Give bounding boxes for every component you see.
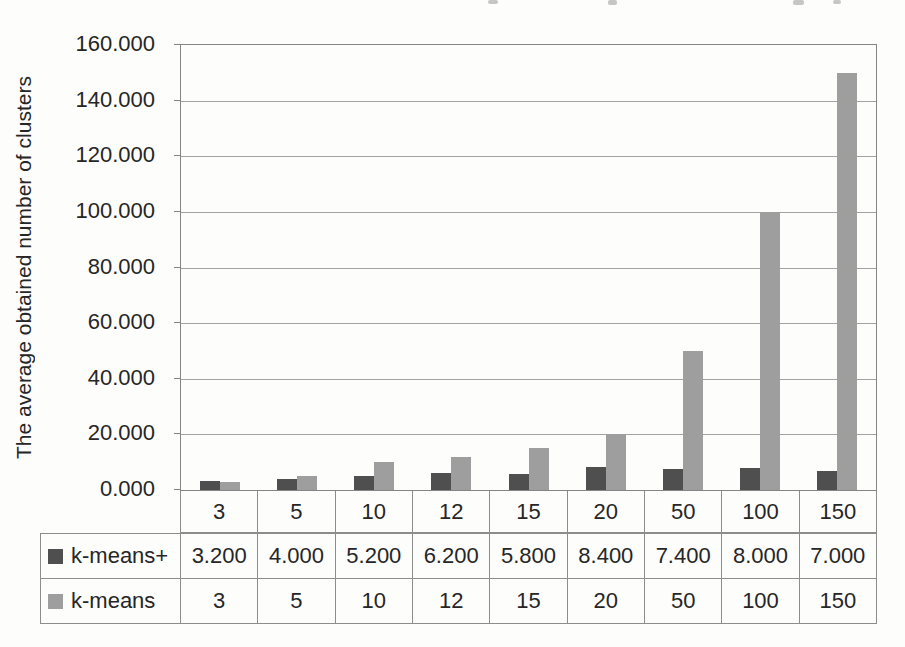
bar-k-meansplus [817,471,837,490]
y-tick-mark [174,211,180,212]
table-value-cell: 7.000 [800,534,877,579]
table-value-cell: 3 [181,579,258,624]
bar-k-means [220,482,240,490]
gridline [181,156,876,157]
table-value-cell: 20 [568,579,645,624]
y-tick-label: 100.000 [75,198,155,224]
table-value-cell: 4.000 [258,534,335,579]
y-tick-label: 20.000 [88,420,155,446]
y-tick-label: 140.000 [75,87,155,113]
y-tick-mark [174,44,180,45]
y-tick-mark [174,322,180,323]
scan-artifact [608,0,617,5]
y-tick-mark [174,433,180,434]
y-tick-mark [174,378,180,379]
y-tick-mark [174,155,180,156]
x-category-cell: 50 [645,491,722,533]
x-category-cell: 12 [413,491,490,533]
table-value-cell: 8.400 [568,534,645,579]
x-category-cell: 20 [568,491,645,533]
table-value-cell: 150 [800,579,877,624]
legend-row-header-k-meansplus: k-means+ [41,534,181,579]
table-value-cell: 3.200 [181,534,258,579]
bar-k-means [837,73,857,490]
bar-k-means [297,476,317,490]
scan-artifact [833,0,841,4]
bar-k-meansplus [509,474,529,490]
bar-k-meansplus [740,468,760,490]
x-category-cell: 15 [490,491,567,533]
legend-label-k-meansplus: k-means+ [71,543,168,569]
gridline [181,101,876,102]
y-tick-label: 0.000 [100,476,155,502]
table-value-cell: 12 [413,579,490,624]
bar-k-means [760,212,780,490]
y-tick-mark [174,100,180,101]
y-tick-label: 40.000 [88,365,155,391]
bar-k-meansplus [200,481,220,490]
table-value-cell: 6.200 [413,534,490,579]
scanned-chart-page: The average obtained number of clusters … [0,0,905,647]
legend-row-header-k-means: k-means [41,579,181,624]
bar-k-means [451,457,471,490]
bar-k-means [683,351,703,490]
y-tick-label: 120.000 [75,142,155,168]
y-axis-title: The average obtained number of clusters [6,44,42,491]
table-value-cell: 5.200 [336,534,413,579]
y-tick-label: 80.000 [88,254,155,280]
table-value-cell: 8.000 [722,534,799,579]
scan-artifact [488,0,498,4]
bar-k-meansplus [586,467,606,490]
scan-artifact [793,0,804,5]
bar-k-meansplus [663,469,683,490]
y-tick-label: 160.000 [75,31,155,57]
x-category-cell: 150 [800,491,877,533]
x-category-cell: 5 [258,491,335,533]
plot-area [180,44,877,491]
bar-k-meansplus [277,479,297,490]
bar-k-means [606,434,626,490]
x-axis-category-row: 351012152050100150 [180,491,877,533]
data-table-legend: k-means+3.2004.0005.2006.2005.8008.4007.… [40,533,877,624]
x-category-cell: 100 [722,491,799,533]
table-value-cell: 50 [645,579,722,624]
table-value-cell: 5 [258,579,335,624]
legend-swatch-k-meansplus [48,549,63,564]
table-value-cell: 100 [722,579,799,624]
bar-k-meansplus [431,473,451,490]
y-tick-mark [174,489,180,490]
legend-label-k-means: k-means [71,588,155,614]
bar-k-means [374,462,394,490]
x-category-cell: 10 [336,491,413,533]
table-value-cell: 10 [336,579,413,624]
table-value-cell: 7.400 [645,534,722,579]
table-value-cell: 5.800 [490,534,567,579]
y-tick-mark [174,267,180,268]
y-tick-label: 60.000 [88,309,155,335]
table-value-cell: 15 [490,579,567,624]
x-category-cell: 3 [181,491,258,533]
bar-k-means [529,448,549,490]
legend-swatch-k-means [48,594,63,609]
bar-k-meansplus [354,476,374,490]
